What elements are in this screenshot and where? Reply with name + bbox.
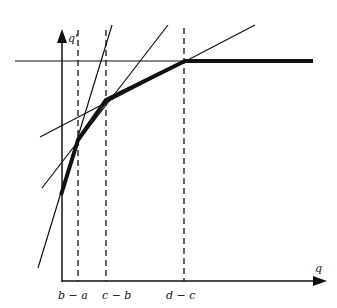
- x-axis-arrow-icon: [313, 276, 327, 286]
- y-axis-arrow-icon: [57, 29, 67, 43]
- tick-label-d-minus-c: d − c: [166, 289, 195, 302]
- tick-label-b-minus-a: b − a: [58, 289, 88, 302]
- envelope-curve: [61, 61, 313, 195]
- tick-label-c-minus-b: c − b: [102, 289, 131, 302]
- dashed-guides: [78, 28, 184, 281]
- axes: [57, 29, 327, 286]
- y-axis-label: q': [68, 32, 78, 45]
- diagram-canvas: q' q b − a c − b d − c: [0, 0, 337, 308]
- x-axis-label: q: [315, 262, 322, 275]
